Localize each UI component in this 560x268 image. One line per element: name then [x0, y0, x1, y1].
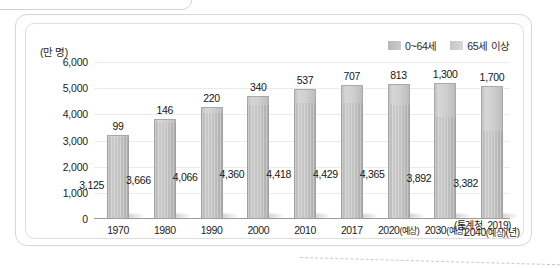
value-label-0-64: 3,666: [126, 174, 151, 186]
y-axis-tick: 2,000: [63, 161, 88, 173]
value-label-65-plus: 707: [343, 70, 360, 82]
legend-swatch-young: [388, 41, 401, 50]
bar-group[interactable]: 1,3003,8922030(예상): [434, 62, 456, 219]
source-citation: (통계청, 2019): [454, 217, 511, 232]
value-label-65-plus: 220: [203, 92, 220, 104]
value-label-0-64: 4,360: [219, 168, 244, 180]
value-label-65-plus: 99: [112, 120, 123, 132]
x-axis-tick: 2010: [294, 224, 316, 236]
chart-outer-frame: 0~64세 65세 이상 (만 명) 01,0002,0003,0004,000…: [15, 14, 532, 246]
value-label-0-64: 4,418: [266, 168, 291, 180]
bar-segment-0-64[interactable]: [341, 103, 363, 219]
value-label-0-64: 3,892: [406, 172, 431, 184]
value-label-0-64: 4,365: [360, 168, 385, 180]
bar-segment-0-64[interactable]: [294, 103, 316, 219]
bar-stack[interactable]: [154, 119, 176, 219]
legend-item-old: 65세 이상: [450, 38, 510, 53]
bar-group[interactable]: 8134,3652020(예상): [388, 62, 410, 219]
x-axis-tick: 1970: [107, 224, 129, 236]
plot-area: 01,0002,0003,0004,0005,0006,000993,12519…: [94, 62, 510, 219]
value-label-0-64: 3,125: [79, 179, 104, 191]
bar-segment-0-64[interactable]: [388, 105, 410, 219]
value-label-65-plus: 813: [390, 69, 407, 81]
y-axis-tick: 5,000: [63, 82, 88, 94]
bar-stack[interactable]: [294, 89, 316, 219]
y-axis-tick: 4,000: [63, 108, 88, 120]
bar-group[interactable]: 1463,6661980: [154, 62, 176, 219]
bar-stack[interactable]: [434, 83, 456, 219]
value-label-0-64: 3,382: [453, 177, 478, 189]
value-label-0-64: 4,429: [313, 168, 338, 180]
value-label-65-plus: 340: [250, 81, 267, 93]
legend-label-old: 65세 이상: [467, 38, 510, 53]
bar-group[interactable]: 3404,3602000: [247, 62, 269, 219]
x-axis-tick: 1980: [154, 224, 176, 236]
bar-group[interactable]: 5374,4182010: [294, 62, 316, 219]
y-axis-tick: 6,000: [63, 56, 88, 68]
y-axis-tick: 3,000: [63, 135, 88, 147]
legend-label-young: 0~64세: [405, 38, 437, 53]
bar-segment-65-plus[interactable]: [434, 83, 456, 117]
x-axis-tick: 2000: [247, 224, 269, 236]
bar-segment-65-plus[interactable]: [341, 85, 363, 103]
chart-inner-frame: 0~64세 65세 이상 (만 명) 01,0002,0003,0004,000…: [25, 23, 524, 239]
value-label-65-plus: 146: [156, 104, 173, 116]
y-axis-tick: 0: [82, 213, 88, 225]
value-label-65-plus: 1,300: [433, 68, 458, 80]
bar-stack[interactable]: [388, 84, 410, 219]
x-axis-tick: 2017: [341, 224, 363, 236]
chart-legend: 0~64세 65세 이상: [388, 38, 510, 53]
value-label-65-plus: 537: [297, 74, 314, 86]
x-axis-tick: 1990: [201, 224, 223, 236]
value-label-0-64: 4,066: [173, 171, 198, 183]
bar-segment-65-plus[interactable]: [481, 86, 503, 130]
bar-stack[interactable]: [201, 107, 223, 219]
bar-segment-0-64[interactable]: [434, 117, 456, 219]
top-border-stub: [0, 0, 192, 10]
bar-stack[interactable]: [247, 96, 269, 219]
bar-segment-65-plus[interactable]: [294, 89, 316, 103]
bar-segment-65-plus[interactable]: [247, 96, 269, 105]
bar-segment-65-plus[interactable]: [388, 84, 410, 105]
bar-stack[interactable]: [481, 86, 503, 219]
value-label-65-plus: 1,700: [480, 71, 505, 83]
bottom-dashed-rule: [300, 257, 560, 265]
bar-group[interactable]: 993,1251970: [107, 62, 129, 219]
legend-swatch-old: [450, 41, 463, 50]
x-axis-tick: 2020(예상): [378, 224, 419, 237]
bar-segment-0-64[interactable]: [201, 113, 223, 219]
bar-group[interactable]: 7074,4292017: [341, 62, 363, 219]
bar-segment-0-64[interactable]: [481, 131, 503, 219]
bar-group[interactable]: 1,7003,3822040(예상)(년): [481, 62, 503, 219]
legend-item-young: 0~64세: [388, 38, 437, 53]
bar-group[interactable]: 2204,0661990: [201, 62, 223, 219]
bar-stack[interactable]: [341, 85, 363, 219]
bar-segment-0-64[interactable]: [247, 105, 269, 219]
